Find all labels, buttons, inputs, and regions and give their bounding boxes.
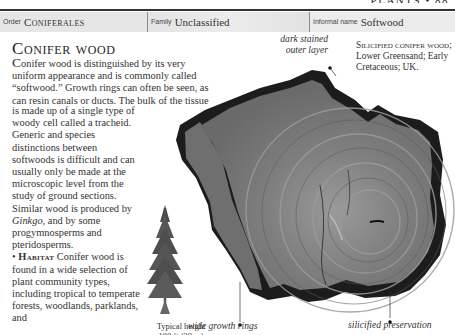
- conifer-tree-illustration: [147, 205, 183, 314]
- body-text: is made up of a single type of woody cel…: [12, 105, 135, 214]
- annotation-dark-stained: dark stained outer layer: [258, 34, 328, 55]
- drop-cap: C: [12, 55, 21, 70]
- article-title: Conifer wood: [12, 39, 115, 59]
- habitat-bullet: •: [12, 251, 16, 262]
- tree-caption-line2: 100 ft (30 m): [146, 332, 216, 335]
- intro-text: onifer wood is distinguished by its very…: [12, 58, 209, 106]
- intro-paragraph: Conifer wood is distinguished by its ver…: [12, 57, 218, 107]
- specimen-caption: Silicified conifer wood; Lower Greensand…: [356, 40, 455, 73]
- annotation-silicified: silicified preservation: [348, 320, 438, 331]
- tree-height-caption: Typical height 100 ft (30 m): [146, 322, 216, 335]
- body-paragraph: is made up of a single type of woody cel…: [12, 105, 140, 325]
- habitat-heading: Habitat: [18, 251, 54, 262]
- ginkgo-term: Ginkgo: [12, 215, 43, 226]
- specimen-caption-name: Silicified conifer wood: [356, 40, 449, 50]
